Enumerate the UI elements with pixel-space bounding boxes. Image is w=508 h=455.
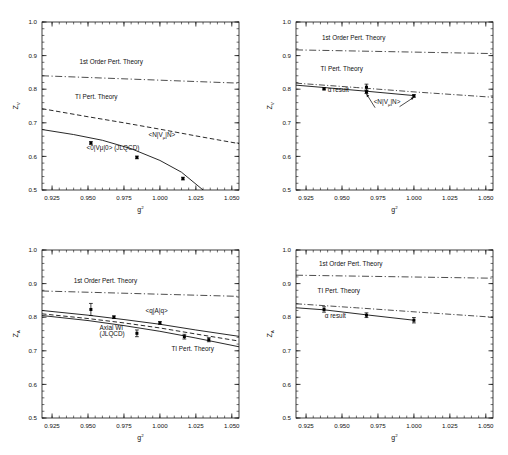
x-tick-label: 0.925 (298, 194, 314, 201)
series-curve (42, 291, 239, 296)
y-tick-label: 0.6 (28, 381, 37, 388)
plot-annotation: <N|Vμ|N> (148, 131, 175, 140)
y-tick-label: 0.7 (28, 119, 37, 126)
y-tick-label: 0.9 (28, 52, 37, 59)
data-marker (323, 308, 326, 311)
y-axis-title: ZV (266, 102, 275, 109)
x-axis-title: g2 (137, 433, 144, 442)
y-tick-label: 0.8 (28, 313, 37, 320)
y-tick-label: 0.8 (282, 85, 291, 92)
plot-annotation: 1st Order Pert. Theory (319, 260, 383, 268)
y-tick-label: 0.7 (282, 119, 291, 126)
plot-frame (296, 22, 493, 190)
plot-annotation: 1st Order Pert. Theory (322, 34, 386, 42)
panel-top-left-canvas: 0.9250.9500.9751.0001.0251.0500.50.60.70… (0, 0, 254, 227)
x-tick-label: 0.950 (80, 422, 96, 429)
data-marker (112, 316, 115, 319)
y-tick-label: 0.8 (28, 85, 37, 92)
y-tick-label: 1.0 (282, 246, 291, 253)
plot-annotation: <N|Vμ|N> (374, 98, 401, 107)
y-tick-label: 0.5 (282, 414, 291, 421)
panel-bottom-left-canvas: 0.9250.9500.9751.0001.0251.0500.50.60.70… (0, 228, 254, 455)
y-tick-label: 0.7 (282, 347, 291, 354)
x-tick-label: 0.975 (116, 194, 132, 201)
series-group (42, 76, 239, 190)
x-tick-label: 0.950 (334, 194, 350, 201)
y-tick-label: 0.6 (282, 153, 291, 160)
plot-frame (42, 22, 239, 190)
plot-annotation: TI Pert. Theory (171, 345, 214, 353)
plot-annotation: α result (328, 86, 349, 93)
series-curve (42, 310, 239, 336)
data-marker (365, 86, 368, 89)
y-tick-label: 0.5 (28, 186, 37, 193)
plot-annotation: TI Pert. Theory (318, 287, 361, 295)
series-curve (296, 50, 493, 54)
y-tick-label: 0.5 (282, 186, 291, 193)
series-curve (42, 109, 239, 144)
figure-root: 0.9250.9500.9751.0001.0251.0500.50.60.70… (0, 0, 508, 455)
x-tick-label: 1.050 (224, 194, 240, 201)
plot-annotation: <q|A|q> (146, 307, 168, 315)
panel-bottom-right-canvas: 0.9250.9500.9751.0001.0251.0500.50.60.70… (254, 228, 508, 455)
series-curve (42, 314, 239, 341)
plot-annotations: 1st Order Pert. TheoryTI Pert. Theoryα r… (320, 34, 400, 106)
plot-frame (42, 250, 239, 418)
data-marker (183, 335, 186, 338)
y-tick-label: 1.0 (282, 18, 291, 25)
panel-top-right: 0.9250.9500.9751.0001.0251.0500.50.60.70… (254, 0, 508, 227)
series-curve (296, 308, 414, 320)
y-axis-title: ZA (266, 330, 275, 337)
plot-annotation: TI Pert. Theory (320, 65, 363, 73)
x-tick-label: 0.975 (370, 194, 386, 201)
panel-bottom-left: 0.9250.9500.9751.0001.0251.0500.50.60.70… (0, 228, 254, 455)
y-tick-label: 0.5 (28, 414, 37, 421)
panel-top-left: 0.9250.9500.9751.0001.0251.0500.50.60.70… (0, 0, 254, 227)
y-axis-title: ZA (12, 330, 21, 337)
y-tick-label: 0.7 (28, 347, 37, 354)
series-curve (42, 130, 203, 190)
x-tick-label: 1.025 (442, 194, 458, 201)
y-axis-title: ZV (12, 102, 21, 109)
plot-annotation: (JLQCD) (100, 330, 125, 338)
data-marker (365, 90, 368, 93)
plot-frame (296, 250, 493, 418)
data-marker (365, 314, 368, 317)
data-marker (323, 87, 326, 90)
y-tick-label: 0.6 (28, 153, 37, 160)
data-marker (135, 332, 138, 335)
y-tick-label: 0.9 (282, 280, 291, 287)
x-axis-title: g2 (137, 205, 144, 214)
x-axis-title: g2 (391, 205, 398, 214)
data-marker (181, 177, 184, 180)
y-tick-label: 0.9 (282, 52, 291, 59)
panel-top-right-canvas: 0.9250.9500.9751.0001.0251.0500.50.60.70… (254, 0, 508, 227)
panel-bottom-right: 0.9250.9500.9751.0001.0251.0500.50.60.70… (254, 228, 508, 455)
x-tick-label: 1.025 (188, 194, 204, 201)
x-tick-label: 1.050 (478, 422, 494, 429)
x-axis-title: g2 (391, 433, 398, 442)
data-marker (207, 338, 210, 341)
data-marker (412, 94, 415, 97)
x-tick-label: 0.925 (44, 422, 60, 429)
x-tick-label: 1.000 (406, 194, 422, 201)
x-tick-label: 1.025 (188, 422, 204, 429)
x-tick-label: 1.000 (152, 194, 168, 201)
axis-ticks: 0.9250.9500.9751.0001.0251.0500.50.60.70… (28, 18, 240, 200)
x-tick-label: 0.950 (80, 194, 96, 201)
y-tick-label: 1.0 (28, 246, 37, 253)
data-marker (158, 321, 161, 324)
data-marker (89, 308, 92, 311)
x-tick-label: 0.950 (334, 422, 350, 429)
data-marker (412, 319, 415, 322)
x-tick-label: 0.975 (116, 422, 132, 429)
plot-annotations: 1st Order Pert. Theory<q|A|q>Axial WI(JL… (74, 277, 215, 353)
x-tick-label: 1.050 (478, 194, 494, 201)
plot-annotation: α result (325, 312, 346, 319)
series-curve (42, 76, 239, 83)
x-tick-label: 1.000 (406, 422, 422, 429)
y-tick-label: 0.9 (28, 280, 37, 287)
x-tick-label: 1.025 (442, 422, 458, 429)
x-tick-label: 0.925 (298, 422, 314, 429)
plot-annotation: TI Pert. Theory (75, 93, 118, 101)
